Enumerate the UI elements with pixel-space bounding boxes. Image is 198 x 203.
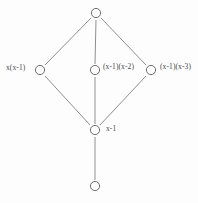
edge-top-center: [95, 20, 96, 64]
edge-top-left: [45, 18, 91, 65]
node-center: [90, 65, 99, 74]
node-label-left: x(x-1): [6, 64, 25, 72]
edge-right-lower: [100, 76, 146, 125]
edge-left-lower: [45, 76, 90, 125]
node-lower: [90, 125, 99, 134]
node-label-lower: x-1: [106, 125, 116, 133]
node-bottom: [90, 181, 99, 190]
node-label-center: (x-1)(x-2): [103, 63, 134, 71]
node-left: [35, 65, 44, 74]
node-right: [146, 65, 155, 74]
node-label-right: (x-1)(x-3): [160, 63, 191, 71]
node-top: [91, 8, 100, 17]
lattice-graph-canvas: [0, 0, 198, 203]
edge-top-right: [101, 18, 146, 65]
edge-group: [45, 18, 146, 180]
lattice-diagram: x(x-1) (x-1)(x-2) (x-1)(x-3) x-1: [0, 0, 198, 203]
